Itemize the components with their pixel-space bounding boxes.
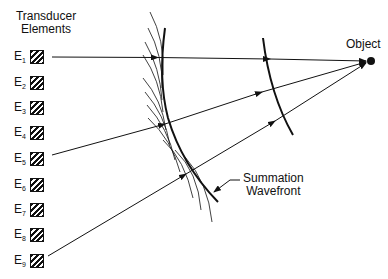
summation-wavefront	[162, 28, 218, 202]
summation-wavefront-label: Summation Wavefront	[243, 172, 304, 198]
wavefront-leader-line	[214, 180, 240, 192]
wavelet-arcs	[143, 12, 212, 222]
ray-e1	[52, 57, 366, 61]
diagram-graphics	[0, 0, 388, 279]
propagated-wavefront	[263, 38, 293, 135]
ray-e9	[48, 63, 366, 256]
wavefront-label-line-2: Wavefront	[243, 185, 304, 198]
object-dot	[367, 57, 375, 65]
object-label: Object	[346, 38, 381, 51]
ray-e5	[52, 62, 366, 155]
